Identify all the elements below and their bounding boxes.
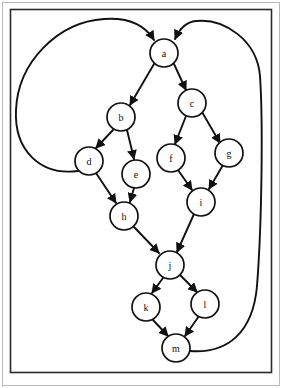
node-c-label: c — [190, 98, 195, 109]
node-b[interactable]: b — [107, 103, 135, 131]
node-k-label: k — [144, 302, 149, 313]
node-e-label: e — [134, 169, 139, 180]
node-j[interactable]: j — [156, 251, 184, 279]
edge-e-to-h — [130, 188, 134, 202]
node-l-label: l — [204, 299, 207, 310]
edge-a-to-c — [174, 64, 186, 90]
edge-l-to-m — [185, 316, 199, 336]
node-l[interactable]: l — [191, 290, 219, 318]
node-a-label: a — [162, 48, 167, 59]
edge-a-to-b — [130, 64, 154, 105]
node-k[interactable]: k — [132, 293, 160, 321]
node-j-label: j — [168, 260, 172, 271]
node-g[interactable]: g — [215, 139, 243, 167]
node-i[interactable]: i — [187, 188, 215, 216]
edge-b-to-d — [96, 130, 113, 148]
page-outer-frame — [3, 3, 280, 386]
node-m-label: m — [172, 343, 180, 354]
edge-h-to-j — [134, 227, 159, 253]
edge-f-to-i — [178, 170, 192, 190]
node-m[interactable]: m — [162, 334, 190, 362]
edge-g-to-i — [209, 165, 223, 189]
edge-k-to-m — [153, 320, 168, 336]
node-i-label: i — [200, 197, 203, 208]
edge-i-to-j — [177, 214, 194, 252]
directed-graph-canvas: a b c d e f g h — [0, 0, 282, 388]
edge-b-to-e — [127, 130, 134, 159]
diagram-page: a b c d e f g h — [0, 0, 282, 388]
edge-j-to-l — [180, 275, 197, 292]
node-h[interactable]: h — [110, 202, 138, 230]
node-e[interactable]: e — [122, 160, 150, 188]
node-d-label: d — [87, 156, 92, 167]
node-g-label: g — [227, 148, 232, 159]
node-h-label: h — [122, 211, 127, 222]
node-b-label: b — [119, 112, 124, 123]
edge-c-to-g — [202, 112, 220, 143]
node-d[interactable]: d — [75, 147, 103, 175]
node-c[interactable]: c — [178, 89, 206, 117]
edge-j-to-k — [152, 278, 163, 293]
edge-c-to-f — [175, 116, 186, 144]
edge-d-to-h — [96, 173, 116, 203]
node-f[interactable]: f — [157, 144, 185, 172]
node-a[interactable]: a — [150, 39, 178, 67]
